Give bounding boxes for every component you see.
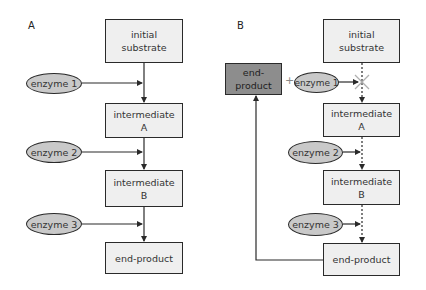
panel-a-enzyme-3: enzyme 3 xyxy=(26,213,82,235)
panel-a-enzyme-1: enzyme 1 xyxy=(26,73,82,94)
panel-b-inhibitor-end-product: end- product xyxy=(225,63,282,95)
panel-a-intermediate-b: intermediate B xyxy=(105,170,183,207)
panel-b-enzyme-2: enzyme 2 xyxy=(288,141,343,164)
panel-b-initial-substrate: initial substrate xyxy=(323,19,400,63)
plus-sign: + xyxy=(285,74,294,87)
panel-a-label: A xyxy=(28,20,35,31)
panel-b-enzyme-3: enzyme 3 xyxy=(288,213,343,236)
panel-b-intermediate-a: intermediate A xyxy=(323,103,400,137)
panel-b-end-product: end-product xyxy=(323,243,400,276)
panel-b-label: B xyxy=(237,20,244,31)
panel-a-enzyme-2: enzyme 2 xyxy=(26,141,82,163)
panel-b-intermediate-b: intermediate B xyxy=(323,170,400,205)
panel-a-intermediate-a: intermediate A xyxy=(105,103,183,138)
panel-b-enzyme-1: enzyme 1 xyxy=(294,72,339,93)
panel-a-arrows xyxy=(82,63,144,241)
panel-a-end-product: end-product xyxy=(105,242,183,274)
panel-a-initial-substrate: initial substrate xyxy=(105,19,183,63)
